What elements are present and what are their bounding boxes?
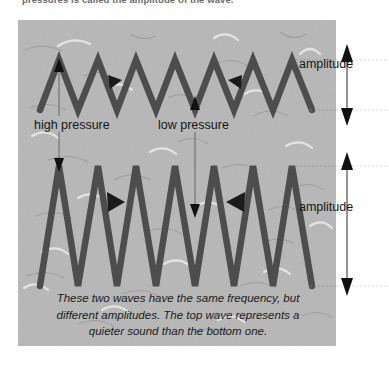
down-arrow-icon <box>341 108 353 126</box>
wave-direction-arrow <box>107 192 125 212</box>
caption-line-1: These two waves have the same frequency,… <box>57 292 300 304</box>
down-arrow-icon <box>190 204 200 218</box>
wave-direction-arrow <box>108 75 122 89</box>
figure-caption: These two waves have the same frequency,… <box>32 290 324 340</box>
label-amplitude-top: amplitude <box>299 57 353 71</box>
caption-line-3: quieter sound than the bottom one. <box>89 325 267 337</box>
amplitude-arrow-bottom <box>341 152 353 296</box>
wave-direction-arrow <box>228 75 242 89</box>
label-low-pressure: low pressure <box>158 118 229 132</box>
figure-panel: high pressure low pressure These two wav… <box>18 20 336 346</box>
low-pressure-pointer <box>190 96 200 218</box>
caption-line-2: different amplitudes. The top wave repre… <box>57 309 300 321</box>
amplitude-guide-lines <box>296 60 336 286</box>
up-arrow-icon <box>341 152 353 170</box>
down-arrow-icon <box>341 278 353 296</box>
intro-paragraph-text: pressures is called the amplitude of the… <box>22 0 362 6</box>
top-wave <box>40 60 312 110</box>
bottom-wave <box>40 166 312 286</box>
guide-line-extensions <box>336 60 389 286</box>
wave-direction-arrow <box>226 192 245 212</box>
label-amplitude-bottom: amplitude <box>299 200 353 214</box>
label-high-pressure: high pressure <box>34 118 110 132</box>
